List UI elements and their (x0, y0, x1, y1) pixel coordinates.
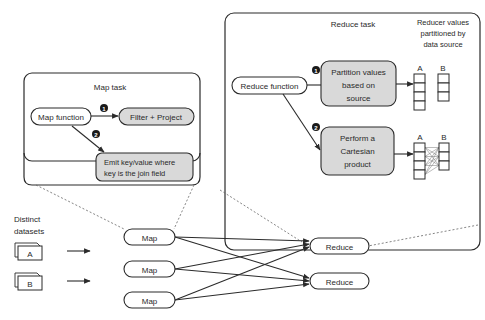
map-node-2: Map (124, 261, 175, 277)
emit-line2: key is the join field (104, 169, 165, 178)
dataset-b-label: B (27, 280, 32, 289)
reduce-step2-arrow (283, 94, 320, 150)
emit-line1: Emit key/value where (104, 158, 175, 167)
values-header-line2: partitioned by (420, 29, 465, 38)
map-node-3-label: Map (142, 297, 158, 306)
cartesian-link (425, 148, 439, 175)
map-node-1-label: Map (142, 234, 158, 243)
pipeline-edges (175, 237, 309, 300)
map-function-node: Map function (31, 108, 91, 125)
map-step1-badge: 1 (100, 104, 108, 112)
values-header-line1: Reducer values (417, 18, 469, 27)
partition-col-b (438, 74, 449, 101)
cartesian-links (425, 148, 439, 175)
partition-line1: Partition values (331, 68, 386, 77)
cartesian-line1: Perform a (340, 134, 376, 143)
edge-map2-reduce1 (175, 244, 309, 269)
map-node-1: Map (124, 229, 175, 245)
cartesian-col-a (414, 143, 425, 179)
cartesian-line2: Cartesian (340, 147, 374, 156)
values-header-line3: data source (423, 40, 462, 49)
cartesian-line3: product (344, 160, 371, 169)
map-task-title: Map task (94, 83, 127, 92)
reduce-step2-badge: 2 (312, 123, 320, 131)
partition-col-b-label: B (440, 64, 445, 73)
dataset-a-icon: A (15, 243, 42, 260)
dataset-a-label: A (27, 250, 33, 259)
distinct-datasets-line2: datasets (14, 227, 44, 236)
edge-map1-reduce1 (175, 237, 309, 241)
filter-project-box: Filter + Project (119, 108, 194, 125)
map-step2-badge: 2 (92, 130, 100, 138)
partition-col-a (414, 74, 425, 110)
dataset-b-icon: B (15, 273, 42, 290)
map-function-label: Map function (38, 113, 84, 122)
reduce-node-2-label: Reduce (326, 278, 354, 287)
partition-line3: source (346, 94, 371, 103)
cartesian-product-box: Perform a Cartesian product (321, 127, 394, 175)
distinct-datasets-line1: Distinct (14, 215, 41, 224)
cartesian-col-b (439, 143, 449, 170)
map-node-2-label: Map (142, 266, 158, 275)
map-node-3: Map (124, 292, 175, 308)
partition-col-a-label: A (417, 64, 423, 73)
reduce-task-title: Reduce task (331, 20, 376, 29)
cartesian-col-a-label: A (417, 133, 423, 142)
reduce-function-label: Reduce function (241, 82, 299, 91)
map-task-panel: Map task Map function 1 Filter + Project… (24, 73, 200, 181)
edge-map1-reduce2 (175, 237, 309, 278)
emit-key-value-box: Emit key/value where key is the join fie… (96, 153, 193, 181)
cartesian-col-b-label: B (441, 133, 446, 142)
reduce-task-panel: Reduce task Reducer values partitioned b… (225, 13, 480, 250)
zoom-guide-lines (36, 185, 478, 246)
reduce-step1-badge: 1 (312, 66, 320, 74)
reduce-node-2: Reduce (310, 273, 369, 289)
reduce-node-1: Reduce (310, 238, 369, 254)
join-diagram: Map task Map function 1 Filter + Project… (0, 0, 485, 320)
partition-line2: based on (342, 81, 375, 90)
partition-values-box: Partition values based on source (321, 61, 396, 106)
reduce-function-node: Reduce function (232, 77, 307, 94)
edge-map2-reduce2 (175, 269, 309, 281)
reduce-node-1-label: Reduce (326, 243, 354, 252)
filter-project-label: Filter + Project (130, 113, 183, 122)
